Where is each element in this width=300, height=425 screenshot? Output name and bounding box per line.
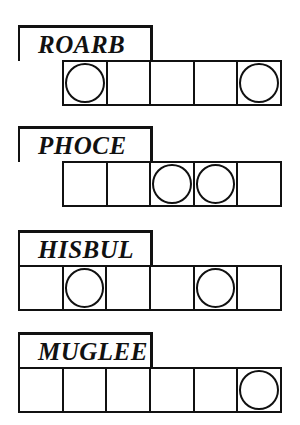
scrambled-word: MUGLEE <box>18 332 153 368</box>
scrambled-word: HISBUL <box>18 230 153 266</box>
letter-box[interactable] <box>108 62 152 104</box>
letter-box[interactable] <box>151 62 195 104</box>
circle-marker-icon <box>196 268 236 308</box>
letter-box[interactable] <box>238 62 280 104</box>
letter-box[interactable] <box>64 62 108 104</box>
letter-box[interactable] <box>238 163 280 205</box>
letter-box[interactable] <box>238 369 280 411</box>
circle-marker-icon <box>65 63 105 103</box>
circle-marker-icon <box>152 164 192 204</box>
answer-boxes <box>18 367 282 413</box>
answer-boxes <box>18 265 282 311</box>
letter-box[interactable] <box>64 267 108 309</box>
letter-box[interactable] <box>107 267 151 309</box>
letter-box[interactable] <box>108 163 152 205</box>
letter-box[interactable] <box>195 267 239 309</box>
circle-marker-icon <box>239 63 279 103</box>
letter-box[interactable] <box>195 163 239 205</box>
letter-box[interactable] <box>20 369 64 411</box>
letter-box[interactable] <box>195 369 239 411</box>
circle-marker-icon <box>239 370 279 410</box>
letter-box[interactable] <box>107 369 151 411</box>
letter-box[interactable] <box>151 267 195 309</box>
circle-marker-icon <box>196 164 236 204</box>
letter-box[interactable] <box>238 267 280 309</box>
answer-boxes <box>62 161 282 207</box>
letter-box[interactable] <box>151 163 195 205</box>
letter-box[interactable] <box>64 163 108 205</box>
scrambled-word: PHOCE <box>18 126 153 162</box>
answer-boxes <box>62 60 282 106</box>
circle-marker-icon <box>65 268 105 308</box>
letter-box[interactable] <box>151 369 195 411</box>
letter-box[interactable] <box>195 62 239 104</box>
letter-box[interactable] <box>64 369 108 411</box>
scrambled-word: ROARB <box>18 25 153 61</box>
letter-box[interactable] <box>20 267 64 309</box>
